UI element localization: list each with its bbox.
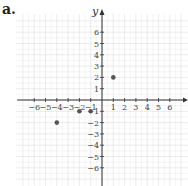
x-tick-label: 4 <box>145 103 150 112</box>
plot-area: y−6−5−4−3−2−1123456−6−5−4−3−2−1123456 <box>0 0 188 186</box>
y-tick-label: 5 <box>94 40 99 49</box>
y-tick-label: −2 <box>87 119 99 128</box>
y-tick-label: 4 <box>94 51 99 60</box>
x-tick-label: −6 <box>28 103 40 112</box>
y-tick-label: 3 <box>94 62 99 71</box>
data-point <box>77 109 82 114</box>
x-tick-label: −4 <box>51 103 63 112</box>
x-tick-label: 5 <box>156 103 161 112</box>
y-tick-label: 6 <box>94 28 99 37</box>
y-axis-label: y <box>91 5 99 18</box>
y-tick-label: −4 <box>87 141 99 150</box>
x-tick-label: 2 <box>122 103 127 112</box>
y-tick-label: 1 <box>94 85 99 94</box>
x-tick-label: 3 <box>133 103 138 112</box>
y-tick-label: −3 <box>87 130 99 139</box>
data-point <box>88 109 93 114</box>
y-tick-label: 2 <box>94 73 99 82</box>
x-tick-label: −5 <box>40 103 52 112</box>
coordinate-plane-figure: a. y−6−5−4−3−2−1123456−6−5−4−3−2−1123456 <box>0 0 188 186</box>
x-tick-label: 6 <box>167 103 172 112</box>
x-tick-label: −3 <box>62 103 74 112</box>
y-tick-label: −5 <box>87 153 99 162</box>
x-tick-label: 1 <box>111 103 116 112</box>
y-axis-arrow-icon <box>100 9 105 15</box>
y-tick-label: −6 <box>87 164 99 173</box>
data-point <box>111 75 116 80</box>
data-point <box>55 120 60 125</box>
x-axis-arrow-icon <box>183 98 188 103</box>
